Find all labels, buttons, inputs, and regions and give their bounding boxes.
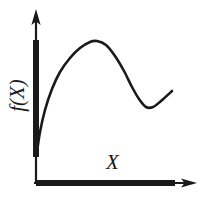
x-axis-group bbox=[34, 178, 197, 187]
function-plot-figure: f(X) X bbox=[0, 0, 207, 200]
x-axis-label: X bbox=[106, 152, 119, 173]
y-axis-label: f(X) bbox=[2, 62, 32, 128]
function-curve bbox=[37, 41, 172, 152]
y-axis-label-text: f(X) bbox=[7, 79, 28, 112]
y-axis-group bbox=[31, 9, 40, 183]
